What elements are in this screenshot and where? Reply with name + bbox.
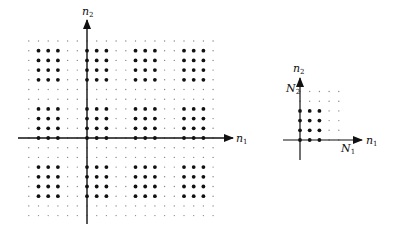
sample-dot-zero [125,118,126,119]
sample-dot-zero [164,205,165,206]
sample-dot-nonzero [46,165,50,169]
sample-dot-nonzero [143,126,147,130]
sample-dot-zero [183,89,184,90]
sample-dot-nonzero [143,117,147,121]
sample-dot-nonzero [134,165,138,169]
sample-dot-nonzero [202,165,206,169]
sample-dot-zero [48,99,49,100]
sample-dot-nonzero [46,59,50,63]
sample-dot-zero [67,99,68,100]
sample-dot-zero [164,176,165,177]
sample-dot-zero [174,176,175,177]
sample-dot-nonzero [143,59,147,63]
sample-dot-zero [77,69,78,70]
sample-dot-zero [193,99,194,100]
sample-dot-nonzero [134,117,138,121]
sample-dot-zero [77,205,78,206]
sample-dot-zero [309,101,310,102]
sample-dot-zero [145,205,146,206]
sample-dot-nonzero [56,117,60,121]
sample-dot-zero [115,69,116,70]
sample-dot-nonzero [56,107,60,111]
label-subscript: 2 [296,88,300,96]
sample-dot-nonzero [46,107,50,111]
sample-dot-zero [28,186,29,187]
sample-dot-nonzero [95,175,99,179]
sample-dot-zero [77,157,78,158]
sample-dot-zero [203,215,204,216]
sample-dot-zero [183,215,184,216]
sample-dot-zero [174,50,175,51]
sample-dot-zero [57,157,58,158]
sample-dot-zero [174,196,175,197]
left-lattice-dots [28,40,214,216]
sample-dot-zero [67,108,68,109]
sample-dot-zero [154,215,155,216]
sample-dot-zero [67,186,68,187]
sample-dot-zero [96,205,97,206]
sample-dot-zero [203,40,204,41]
sample-dot-zero [96,215,97,216]
sample-dot-zero [164,196,165,197]
sample-dot-zero [174,186,175,187]
sample-dot-zero [67,196,68,197]
sample-dot-nonzero [182,117,186,121]
sample-dot-zero [57,147,58,148]
sample-dot-zero [77,215,78,216]
sample-dot-nonzero [153,59,157,63]
sample-dot-zero [135,205,136,206]
sample-dot-nonzero [153,194,157,198]
sample-dot-zero [203,205,204,206]
sample-dot-nonzero [192,78,196,82]
sample-dot-zero [115,108,116,109]
sample-dot-zero [67,205,68,206]
sample-dot-zero [115,215,116,216]
sample-dot-zero [96,99,97,100]
sample-dot-nonzero [46,49,50,53]
sample-dot-zero [106,40,107,41]
sample-dot-zero [28,147,29,148]
sample-dot-nonzero [182,175,186,179]
sample-dot-nonzero [95,68,99,72]
sample-dot-zero [77,128,78,129]
sample-dot-zero [212,89,213,90]
sample-dot-nonzero [56,49,60,53]
sample-dot-zero [212,205,213,206]
sample-dot-zero [328,101,329,102]
sample-dot-nonzero [56,68,60,72]
sample-dot-zero [125,176,126,177]
sample-dot-zero [328,120,329,121]
sample-dot-zero [212,69,213,70]
sample-dot-nonzero [308,119,312,123]
sample-dot-zero [203,89,204,90]
sample-dot-nonzero [37,107,41,111]
sample-dot-zero [77,60,78,61]
sample-dot-nonzero [153,78,157,82]
sample-dot-nonzero [153,107,157,111]
sample-dot-zero [125,166,126,167]
sample-dot-nonzero [56,78,60,82]
sample-dot-zero [212,215,213,216]
sample-dot-zero [174,215,175,216]
sample-dot-nonzero [192,59,196,63]
sample-dot-zero [164,60,165,61]
sample-dot-zero [183,157,184,158]
sample-dot-nonzero [202,175,206,179]
sample-dot-nonzero [143,107,147,111]
sample-dot-nonzero [37,185,41,189]
sample-dot-zero [67,157,68,158]
sample-dot-nonzero [134,68,138,72]
sample-dot-zero [28,205,29,206]
sample-dot-nonzero [318,128,322,132]
sample-dot-nonzero [134,49,138,53]
sample-dot-zero [338,91,339,92]
sample-dot-nonzero [192,126,196,130]
sample-dot-nonzero [95,59,99,63]
sample-dot-zero [174,205,175,206]
sample-dot-zero [154,99,155,100]
label-subscript: 2 [300,68,304,76]
right-N2-tick-label: N2 [286,83,300,96]
right-n2-axis-label: n2 [293,63,305,76]
sample-dot-zero [174,99,175,100]
sample-dot-zero [67,147,68,148]
